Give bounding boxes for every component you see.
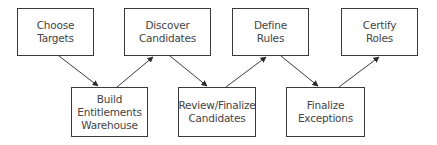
node-finalize-exceptions: Finalize Exceptions: [286, 87, 365, 137]
arrow-build-entitlements-warehouse-to-discover-candidates: [117, 57, 153, 87]
node-label: Finalize Exceptions: [298, 99, 353, 125]
node-choose-targets: Choose Targets: [17, 8, 94, 56]
arrow-choose-targets-to-build-entitlements-warehouse: [59, 56, 98, 86]
node-label: Build Entitlements Warehouse: [77, 93, 141, 132]
node-review-finalize-candidates: Review/Finalize Candidates: [178, 87, 256, 137]
node-label: Discover Candidates: [139, 19, 196, 45]
process-flow-diagram: Choose Targets Build Entitlements Wareho…: [0, 0, 437, 145]
arrow-discover-candidates-to-review-finalize-candidates: [170, 56, 207, 86]
node-discover-candidates: Discover Candidates: [124, 8, 211, 56]
node-build-entitlements-warehouse: Build Entitlements Warehouse: [71, 87, 148, 137]
node-label: Choose Targets: [37, 19, 75, 45]
node-label: Review/Finalize Candidates: [178, 99, 255, 125]
arrow-define-rules-to-finalize-exceptions: [281, 56, 318, 86]
node-label: Define Rules: [254, 19, 287, 45]
node-certify-roles: Certify Roles: [341, 8, 418, 56]
arrow-finalize-exceptions-to-certify-roles: [339, 57, 379, 87]
arrow-review-finalize-candidates-to-define-rules: [226, 57, 266, 87]
node-define-rules: Define Rules: [232, 8, 309, 56]
node-label: Certify Roles: [363, 19, 396, 45]
